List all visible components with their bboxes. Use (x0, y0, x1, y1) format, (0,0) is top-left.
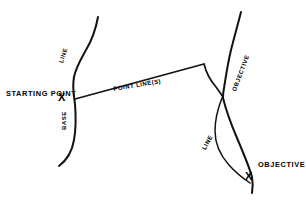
starting-point-marker: X (58, 92, 65, 103)
label-starting-point: STARTING POINT (6, 90, 76, 97)
label-objective-point: OBJECTIVE (258, 161, 305, 168)
diagram-canvas (0, 0, 306, 207)
objective-point-marker: X (245, 171, 252, 182)
navigation-diagram: STARTING POINT X LINE BASE POINT LINE(S)… (0, 0, 306, 207)
elbow-segment (204, 64, 223, 97)
label-base: BASE (61, 111, 67, 130)
